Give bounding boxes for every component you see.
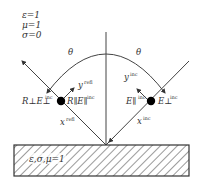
angle-theta-left: θ [68,47,73,57]
label-y-inc: y [123,72,129,82]
svg-text:inc: inc [130,71,138,77]
param-mu: μ=1 [22,20,41,30]
param-sigma: σ=0 [22,30,42,40]
label-x-refl: x [60,117,65,127]
svg-text:inc: inc [138,94,146,100]
svg-text:inc: inc [45,94,53,100]
angle-theta-right: θ [136,47,141,57]
upper-medium-params: ε=1 μ=1 σ=0 [22,10,42,40]
svg-text:inc: inc [87,94,95,100]
label-x-inc: x [137,116,142,126]
incident-ray-arrow [109,136,115,142]
svg-text:refl: refl [66,116,75,122]
label-r-par-e-par: R∥E∥ [66,96,88,106]
param-epsilon: ε=1 [22,10,40,20]
svg-text:inc: inc [143,115,151,121]
incident-field-dot [147,97,155,105]
reflected-field-dot [57,97,65,105]
diagram-canvas: ε=1 μ=1 σ=0 θ θ R⊥E⊥ inc R∥E∥ inc y refl… [0,0,201,189]
label-y-refl: y [77,80,83,90]
svg-text:inc: inc [170,94,178,100]
label-e-par: E∥ [125,96,136,106]
svg-text:refl: refl [84,79,93,85]
lower-medium-label: ε,σ,μ=1 [29,154,65,164]
